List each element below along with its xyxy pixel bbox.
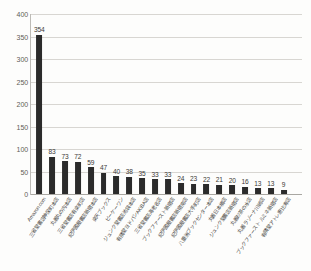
bar-value-label: 9 (282, 181, 286, 188)
bar-value-label: 354 (34, 26, 45, 33)
bar (139, 178, 145, 194)
bar-item: 9 (277, 14, 290, 194)
bar-item: 354 (33, 14, 46, 194)
plot-area: 3548373725947403835333324232221201613139 (30, 14, 302, 194)
y-tick-label: 100 (2, 146, 28, 153)
bar (178, 183, 184, 194)
bar (88, 167, 94, 194)
x-axis-category-labels: Amazon.com三省堂書店神保町本店丸善丸の内本店三省堂書店有楽町店紀伊國屋… (30, 196, 302, 271)
bar-item: 47 (97, 14, 110, 194)
bar-item: 13 (264, 14, 277, 194)
y-tick-label: 150 (2, 123, 28, 130)
bar (255, 188, 261, 194)
bar (113, 176, 119, 194)
bar-item: 16 (239, 14, 252, 194)
bar-value-label: 21 (216, 176, 223, 183)
bar-value-label: 23 (190, 175, 197, 182)
y-tick-label: 50 (2, 168, 28, 175)
bar-value-label: 20 (229, 177, 236, 184)
bar-item: 83 (46, 14, 59, 194)
bar-value-label: 40 (113, 168, 120, 175)
bar-value-label: 13 (254, 180, 261, 187)
bar-item: 13 (251, 14, 264, 194)
bar-item: 22 (200, 14, 213, 194)
y-tick-label: 250 (2, 78, 28, 85)
bar-value-label: 83 (49, 148, 56, 155)
bar-value-label: 16 (241, 178, 248, 185)
bar-value-label: 47 (100, 164, 107, 171)
y-tick-label: 0 (2, 191, 28, 198)
bar (242, 187, 248, 194)
bar-value-label: 38 (126, 168, 133, 175)
bar-value-label: 22 (203, 176, 210, 183)
bar-item: 40 (110, 14, 123, 194)
bar (62, 161, 68, 194)
bar-value-label: 33 (164, 171, 171, 178)
bar (36, 35, 42, 194)
bar-item: 38 (123, 14, 136, 194)
bar-item: 59 (84, 14, 97, 194)
bar (126, 177, 132, 194)
bar-value-label: 24 (177, 175, 184, 182)
bar (281, 190, 287, 194)
bar-value-label: 59 (87, 159, 94, 166)
bar-item: 21 (213, 14, 226, 194)
y-tick-label: 350 (2, 33, 28, 40)
bar-item: 73 (59, 14, 72, 194)
bar-value-label: 72 (74, 153, 81, 160)
bar (191, 184, 197, 194)
y-axis-tick-labels: 050100150200250300350400 (0, 14, 28, 194)
bar (229, 185, 235, 194)
bar-item: 33 (161, 14, 174, 194)
bar-item: 33 (149, 14, 162, 194)
y-tick-label: 200 (2, 101, 28, 108)
bar (165, 179, 171, 194)
bar-value-label: 33 (151, 171, 158, 178)
bar-value-label: 13 (267, 180, 274, 187)
bar-item: 24 (174, 14, 187, 194)
bar (75, 162, 81, 194)
bar (49, 157, 55, 194)
bar-value-label: 35 (139, 170, 146, 177)
y-tick-label: 400 (2, 11, 28, 18)
bar (152, 179, 158, 194)
bar-item: 72 (71, 14, 84, 194)
bar-value-label: 73 (61, 153, 68, 160)
bar (203, 184, 209, 194)
bar-chart: 050100150200250300350400 354837372594740… (0, 0, 311, 271)
bar-item: 20 (226, 14, 239, 194)
bar-item: 23 (187, 14, 200, 194)
chart-title (0, 0, 311, 5)
bar (268, 188, 274, 194)
bar-item: 35 (136, 14, 149, 194)
bar (101, 173, 107, 194)
gridline (30, 194, 302, 195)
y-axis-line (30, 14, 31, 195)
y-tick-label: 300 (2, 56, 28, 63)
bar (216, 185, 222, 194)
